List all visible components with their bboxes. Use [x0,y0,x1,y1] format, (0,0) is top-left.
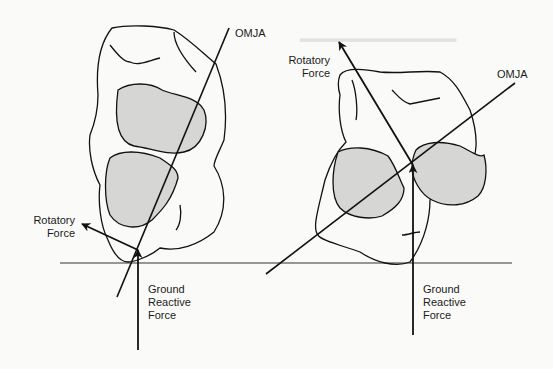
diagram-figure [0,0,553,369]
left-omja-label: OMJA [235,27,266,40]
left-ground-force-label-line3: Force [148,309,191,322]
left-ground-force-label-line1: Ground [148,283,191,296]
right-ground-force-label-line1: Ground [423,283,466,296]
left-ground-reactive-force-label: Ground Reactive Force [148,283,191,322]
right-ground-reactive-force-label: Ground Reactive Force [423,283,466,322]
right-rotatory-force-label-line2: Force [280,67,330,80]
right-bone-left-facet [333,148,404,218]
right-rotatory-force-arrow [339,42,413,165]
right-ground-force-label-line3: Force [423,309,466,322]
left-rotatory-force-label: Rotatory Force [25,214,75,240]
right-rotatory-force-label: Rotatory Force [280,54,330,80]
left-rotatory-force-label-line2: Force [25,227,75,240]
left-rotatory-force-label-line1: Rotatory [25,214,75,227]
left-bone-upper-facet [117,84,206,153]
left-ground-force-label-line2: Reactive [148,296,191,309]
right-rotatory-force-label-line1: Rotatory [280,54,330,67]
left-bone-lower-facet [106,152,179,227]
right-ground-force-label-line2: Reactive [423,296,466,309]
right-omja-label: OMJA [497,68,528,81]
